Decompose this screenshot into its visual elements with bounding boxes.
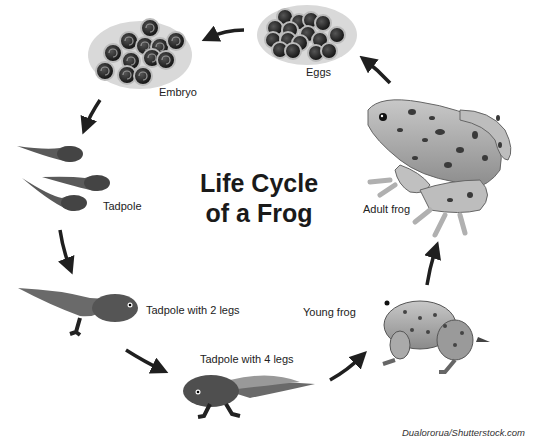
diagram-title: Life Cycle of a Frog <box>174 168 344 228</box>
label-young-frog: Young frog <box>303 306 356 318</box>
label-tadpole-2-legs: Tadpole with 2 legs <box>146 304 240 316</box>
arrow-2legs-to-4legs <box>126 350 162 370</box>
label-eggs: Eggs <box>306 66 331 78</box>
tadpole-illustration <box>17 146 110 211</box>
tadpole-2-legs-illustration <box>18 288 138 335</box>
embryo-illustration <box>88 19 192 89</box>
eggs-illustration <box>257 5 357 65</box>
title-line-2: of a Frog <box>174 198 344 228</box>
label-adult-frog: Adult frog <box>363 203 410 215</box>
arrow-tadpole-to-2legs <box>60 230 70 268</box>
arrow-young-to-adult <box>427 248 436 285</box>
image-credit: Dualororua/Shutterstock.com <box>402 427 525 438</box>
arrow-4legs-to-young <box>330 356 362 380</box>
arrow-adult-to-eggs <box>365 60 390 83</box>
label-tadpole-4-legs: Tadpole with 4 legs <box>200 353 294 365</box>
arrow-eggs-to-embryo <box>208 30 244 38</box>
tadpole-4-legs-illustration <box>183 375 315 417</box>
label-embryo: Embryo <box>159 86 197 98</box>
title-line-1: Life Cycle <box>174 168 344 198</box>
label-tadpole: Tadpole <box>103 200 142 212</box>
young-frog-illustration <box>383 301 490 373</box>
arrow-embryo-to-tadpole <box>85 100 100 128</box>
